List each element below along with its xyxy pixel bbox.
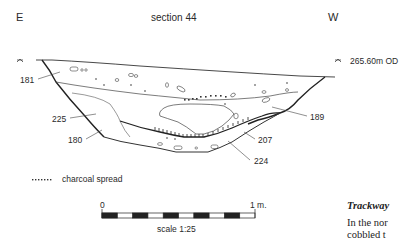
paragraph-line-1: In the nor [347, 217, 388, 229]
context-label-181: 181 [20, 76, 34, 85]
context-label-189: 189 [310, 113, 324, 122]
context-label-225: 225 [52, 115, 66, 124]
section-heading: Trackway [347, 200, 389, 211]
context-label-180: 180 [68, 136, 82, 145]
charcoal-spread-legend-icon [32, 179, 51, 180]
scale-bar [102, 209, 255, 218]
section-drawing [0, 0, 403, 248]
leader-lines [38, 72, 307, 160]
context-label-207: 207 [258, 136, 272, 145]
datum-label: 265.60m OD [350, 57, 398, 66]
scale-end-label: 1 m. [250, 201, 267, 210]
datum-marker-east-icon [17, 59, 23, 62]
datum-marker-west-icon [335, 59, 341, 62]
scale-ratio-label: scale 1:25 [157, 225, 196, 234]
paragraph-line-2: cobbled t [347, 229, 386, 241]
stone-inclusions [70, 67, 289, 150]
legend-charcoal-spread: charcoal spread [62, 175, 122, 184]
scale-start-label: 0 [100, 201, 105, 210]
context-label-224: 224 [254, 157, 268, 166]
